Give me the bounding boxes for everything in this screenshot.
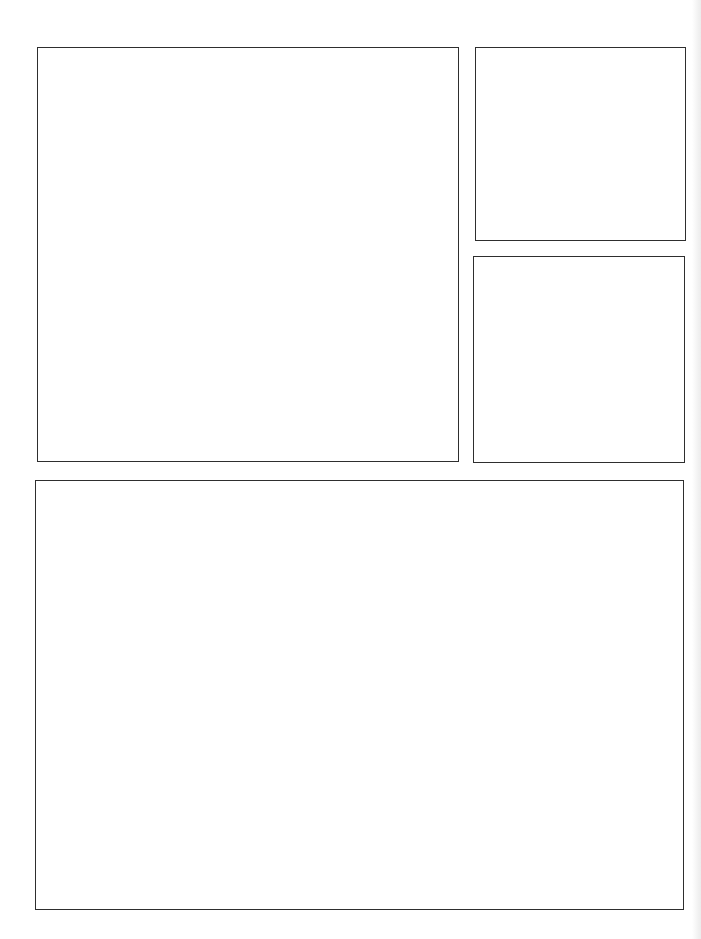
panel-large-top-left <box>37 47 459 462</box>
panel-wide-bottom <box>35 480 684 910</box>
page-edge-shadow <box>692 0 701 939</box>
panel-label <box>476 48 477 49</box>
panel-label <box>474 257 475 258</box>
comic-page <box>0 0 701 939</box>
panel-label <box>38 48 39 49</box>
panel-small-top-right <box>475 47 686 241</box>
panel-small-middle-right <box>473 256 685 463</box>
panel-label <box>36 481 37 482</box>
